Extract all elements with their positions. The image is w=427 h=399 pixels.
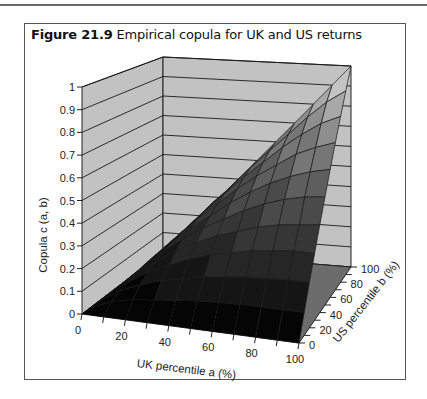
x-tick [124, 320, 125, 326]
z-tick-label: 0 [69, 308, 75, 320]
y-tick-label: 40 [330, 309, 342, 321]
x-tick-label: 20 [115, 330, 127, 342]
x-tick [103, 317, 104, 323]
z-tick-label: 1 [69, 81, 75, 93]
x-tick-label: 40 [159, 336, 171, 348]
x-tick [211, 331, 212, 337]
plot-area: 00.10.20.30.40.50.60.70.80.9102040608010… [37, 57, 401, 381]
z-tick-label: 0.1 [60, 285, 75, 297]
y-tick-label: 80 [351, 278, 363, 290]
z-tick-label: 0.3 [60, 240, 75, 252]
x-tick [233, 334, 234, 340]
x-tick [146, 323, 147, 329]
copula-surface-chart: 00.10.20.30.40.50.60.70.80.9102040608010… [0, 0, 427, 399]
z-tick-label: 0.6 [60, 172, 75, 184]
x-tick [190, 329, 191, 335]
x-tick [276, 340, 277, 346]
x-tick [81, 314, 82, 320]
y-tick-label: 20 [319, 324, 331, 336]
x-tick-label: 80 [245, 347, 257, 359]
y-tick-label: 0 [309, 339, 315, 351]
y-tick-label: 100 [361, 263, 379, 275]
x-tick [168, 326, 169, 332]
x-axis-title: UK percentile a (%) [136, 357, 237, 381]
z-tick-label: 0.9 [60, 104, 75, 116]
z-tick-label: 0.8 [60, 126, 75, 138]
z-tick-label: 0.4 [60, 217, 75, 229]
z-axis-title: Copula c (a, b) [37, 197, 49, 273]
x-tick-label: 0 [75, 324, 81, 336]
x-tick [298, 343, 299, 349]
y-tick-label: 60 [340, 293, 352, 305]
x-tick [255, 337, 256, 343]
x-tick-label: 100 [286, 353, 304, 365]
z-tick-label: 0.7 [60, 149, 75, 161]
z-tick-label: 0.5 [60, 195, 75, 207]
x-tick-label: 60 [202, 341, 214, 353]
z-tick-label: 0.2 [60, 263, 75, 275]
